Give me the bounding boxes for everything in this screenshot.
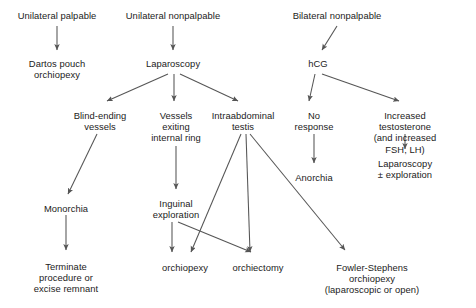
node-terminate-procedure: Terminate procedure or excise remnant: [34, 261, 98, 295]
node-hcg: hCG: [308, 58, 327, 69]
node-vessels-exiting-internal-ring: Vessels exiting internal ring: [151, 110, 201, 144]
edge-inguinal-to-orchiectomy: [178, 222, 251, 252]
node-orchiectomy: orchiectomy: [232, 262, 283, 273]
node-laparoscopy-exploration: Laparoscopy ± exploration: [378, 158, 432, 180]
edge-intraabdominal-to-orchiectomy: [246, 134, 250, 252]
node-laparoscopy: Laparoscopy: [146, 58, 200, 69]
flowchart-diagram: Unilateral palpable Dartos pouch orchiop…: [0, 0, 476, 308]
node-bilateral-nonpalpable: Bilateral nonpalpable: [293, 10, 382, 21]
edge-intraabdominal-to-orchiopexy: [191, 134, 241, 252]
node-intraabdominal-testis: Intraabdominal testis: [212, 110, 275, 132]
node-inguinal-exploration: Inguinal exploration: [153, 198, 199, 220]
node-unilateral-palpable: Unilateral palpable: [18, 10, 97, 21]
edge-hcg-to-no-response: [309, 74, 315, 101]
node-unilateral-nonpalpable: Unilateral nonpalpable: [126, 10, 220, 21]
edge-intraabdominal-to-fowler-stephens: [250, 134, 345, 250]
node-blind-ending-vessels: Blind-ending vessels: [74, 110, 127, 132]
node-monorchia: Monorchia: [44, 203, 88, 214]
edge-laparoscopy-to-blind-ending: [107, 74, 168, 101]
edge-hcg-to-increased-testosterone: [322, 74, 399, 101]
edge-laparoscopy-to-intraabdominal: [180, 74, 238, 101]
edge-bilateral-nonpalpable-to-hcg: [322, 26, 337, 50]
edge-blind-ending-to-monorchia: [68, 134, 97, 194]
node-anorchia: Anorchia: [295, 172, 332, 183]
node-orchiopexy: orchiopexy: [162, 262, 208, 273]
node-no-response: No response: [295, 110, 334, 132]
node-fowler-stephens-orchiopexy: Fowler-Stephens orchiopexy (laparoscopic…: [320, 262, 424, 296]
node-dartos-pouch-orchiopexy: Dartos pouch orchiopexy: [29, 58, 85, 80]
node-increased-testosterone: Increased testosterone (and increased FS…: [370, 110, 441, 155]
